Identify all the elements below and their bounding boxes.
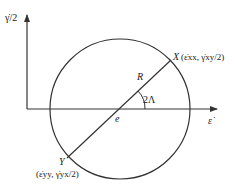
angle-label: 2Λ <box>143 94 156 105</box>
point-x-name: X <box>172 51 180 62</box>
radius-label: R <box>136 71 143 82</box>
center-label: e <box>115 113 120 124</box>
y-axis-label: γ̇/2 <box>4 12 17 23</box>
point-y-coords: (ε̇yy, γ̇yx/2) <box>36 169 79 179</box>
x-axis-label: ε̇ <box>208 115 215 126</box>
mohr-circle-diagram: γ̇/2 ε̇ e R 2Λ X (ε̇xx, γ̇xy/2) Y (ε̇yy,… <box>0 0 235 189</box>
point-x-coords: (ε̇xx, γ̇xy/2) <box>181 52 224 62</box>
point-y-name: Y <box>59 156 66 167</box>
